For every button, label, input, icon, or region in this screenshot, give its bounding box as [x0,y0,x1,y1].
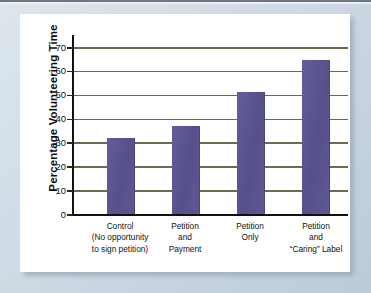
tick-label-40: 40 [42,114,66,124]
tick-20 [67,166,73,168]
figure-container: Percentage Volunteering Time 70 60 50 40 [0,0,371,293]
tick-label-70: 70 [42,43,66,53]
x-axis-line [72,214,348,216]
plot-area: 70 60 50 40 30 20 10 [72,35,348,214]
bar-chart: Percentage Volunteering Time 70 60 50 40 [20,14,350,272]
bar-petition-only [237,92,265,214]
x-label-petition-and-payment-line3: Payment [150,244,220,255]
tick-40 [67,119,73,121]
tick-10 [67,190,73,192]
bar-control [107,138,135,214]
tick-label-10: 10 [42,186,66,196]
chart-card: Percentage Volunteering Time 70 60 50 40 [20,14,350,272]
x-label-petition-and-caring-label-line1: Petition [275,221,357,232]
bar-petition-and-payment [172,126,200,214]
x-label-petition-and-payment-line1: Petition [150,221,220,232]
x-label-petition-and-caring-label: Petition and “Caring” Label [275,221,357,255]
x-label-petition-and-payment-line2: and [150,232,220,243]
bar-petition-and-caring-label [302,60,330,214]
y-axis-line [72,35,74,216]
tick-label-0: 0 [42,210,66,220]
tick-label-30: 30 [42,138,66,148]
tick-label-60: 60 [42,66,66,76]
x-label-petition-and-caring-label-line3: “Caring” Label [275,244,357,255]
tick-50 [67,95,73,97]
tick-60 [67,71,73,73]
tick-70 [67,47,73,49]
gridline-70 [74,47,348,49]
tick-label-50: 50 [42,90,66,100]
x-label-petition-and-payment: Petition and Payment [150,221,220,255]
tick-label-20: 20 [42,162,66,172]
top-divider-highlight [0,2,371,4]
x-label-petition-and-caring-label-line2: and [275,232,357,243]
tick-30 [67,142,73,144]
tick-0 [67,214,73,216]
